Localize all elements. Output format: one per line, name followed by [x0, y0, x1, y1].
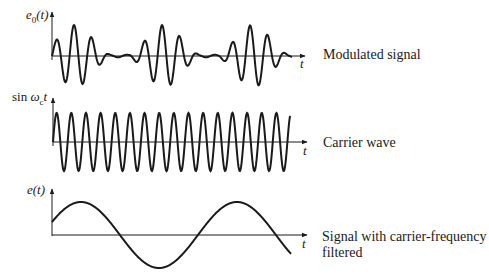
filtered-caption: Signal with carrier-frequency filtered [322, 229, 487, 261]
modulated-x-label: t [300, 56, 304, 72]
modulated-caption: Modulated signal [323, 47, 421, 63]
filtered-signal-panel [52, 189, 307, 268]
modulated-y-label: e0(t) [26, 7, 49, 25]
modulated-signal-panel [52, 12, 305, 85]
filtered-x-label: t [302, 236, 306, 252]
carrier-wave-panel [53, 98, 307, 171]
carrier-caption: Carrier wave [323, 135, 396, 151]
filtered-y-label: e(t) [27, 182, 45, 198]
filtered-caption-line2: filtered [322, 245, 487, 261]
carrier-y-label: sin ωct [12, 89, 47, 107]
carrier-x-label: t [303, 143, 307, 159]
filtered-caption-line1: Signal with carrier-frequency [322, 229, 487, 245]
modulated-signal-curve [52, 25, 292, 85]
